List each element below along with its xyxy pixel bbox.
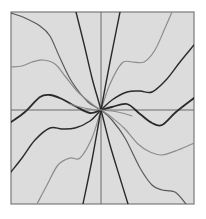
plot xyxy=(0,0,206,219)
